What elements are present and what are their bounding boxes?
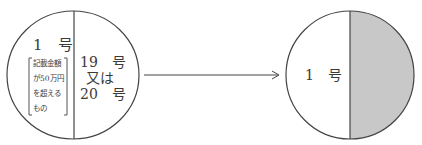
right-section-line-2: 又は — [86, 70, 114, 86]
right-circle: 1 号 — [286, 11, 414, 139]
right-section-line-3: 20 号 — [80, 86, 126, 102]
bracket-line-4: もの — [33, 104, 47, 113]
right-section-line-1: 19 号 — [80, 54, 126, 70]
diagram-canvas: 1 号 記載金額 が50万円 を超える もの 19 号 又は 20 号 1 号 — [0, 0, 422, 145]
right-circle-label-1gou: 1 号 — [305, 67, 342, 83]
left-circle: 1 号 記載金額 が50万円 を超える もの 19 号 又は 20 号 — [7, 11, 139, 139]
shaded-half — [350, 11, 414, 139]
arrow-right-icon — [144, 71, 279, 79]
bracket-line-1: 記載金額 — [33, 58, 62, 68]
left-circle-label-1gou: 1 号 — [33, 36, 73, 54]
bracket-line-3: を超える — [33, 89, 61, 98]
bracket-line-2: が50万円 — [33, 73, 64, 83]
